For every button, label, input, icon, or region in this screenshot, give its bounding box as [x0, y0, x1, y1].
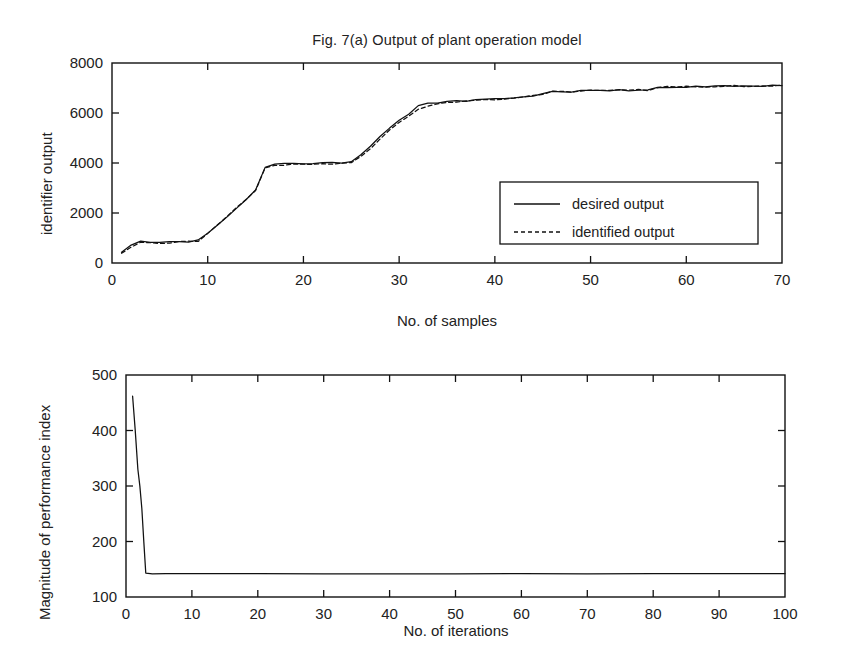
svg-text:90: 90: [711, 605, 728, 622]
svg-text:10: 10: [199, 271, 216, 288]
svg-text:4000: 4000: [70, 154, 103, 171]
svg-text:40: 40: [487, 271, 504, 288]
bottom-chart-svg: 0102030405060708090100100200300400500: [0, 330, 842, 671]
svg-text:2000: 2000: [70, 204, 103, 221]
svg-text:10: 10: [184, 605, 201, 622]
top-chart-xlabel: No. of samples: [112, 312, 782, 329]
svg-text:6000: 6000: [70, 104, 103, 121]
svg-text:70: 70: [774, 271, 791, 288]
svg-text:80: 80: [645, 605, 662, 622]
top-chart-panel: Fig. 7(a) Output of plant operation mode…: [0, 0, 842, 340]
svg-text:0: 0: [95, 254, 103, 271]
svg-text:100: 100: [92, 588, 117, 605]
bottom-chart-xlabel: No. of iterations: [126, 622, 786, 639]
svg-text:30: 30: [315, 605, 332, 622]
svg-text:40: 40: [381, 605, 398, 622]
figure-container: Fig. 7(a) Output of plant operation mode…: [0, 0, 842, 671]
svg-text:60: 60: [678, 271, 695, 288]
svg-text:20: 20: [249, 605, 266, 622]
legend-label: identified output: [572, 224, 674, 240]
svg-text:60: 60: [513, 605, 530, 622]
svg-text:30: 30: [391, 271, 408, 288]
svg-text:50: 50: [582, 271, 599, 288]
top-chart-svg: 01020304050607002000400060008000desired …: [0, 0, 842, 340]
series-line: [133, 396, 785, 574]
svg-text:200: 200: [92, 533, 117, 550]
legend-label: desired output: [572, 196, 664, 212]
svg-text:50: 50: [447, 605, 464, 622]
svg-text:300: 300: [92, 477, 117, 494]
svg-text:0: 0: [108, 271, 116, 288]
svg-text:100: 100: [772, 605, 797, 622]
figure-title: Fig. 7(a) Output of plant operation mode…: [112, 32, 782, 48]
svg-text:20: 20: [295, 271, 312, 288]
bottom-chart-ylabel: Magnitude of performance index: [36, 405, 53, 620]
svg-text:0: 0: [122, 605, 130, 622]
top-chart-ylabel: identifier output: [38, 132, 55, 235]
svg-text:8000: 8000: [70, 54, 103, 71]
svg-text:70: 70: [579, 605, 596, 622]
svg-text:400: 400: [92, 422, 117, 439]
svg-text:500: 500: [92, 366, 117, 383]
bottom-chart-panel: Magnitude of performance index No. of it…: [0, 330, 842, 671]
